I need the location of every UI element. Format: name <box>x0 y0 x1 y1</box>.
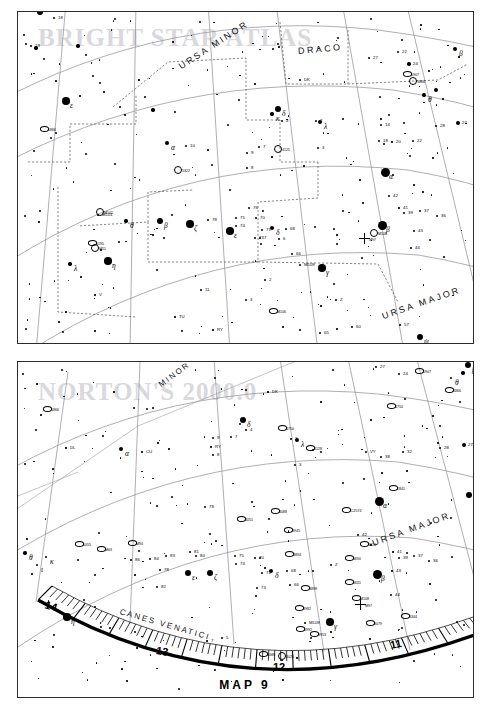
background-star <box>336 243 338 245</box>
deep-sky-object-label: 3982 <box>303 608 311 612</box>
star-marker <box>365 451 367 453</box>
background-star <box>51 586 52 587</box>
background-star <box>380 118 381 119</box>
star-marker <box>285 228 288 231</box>
star-marker <box>103 91 104 92</box>
background-star <box>152 407 154 409</box>
star-marker <box>212 454 214 456</box>
background-star <box>187 503 188 504</box>
background-star <box>419 316 420 317</box>
background-star <box>109 627 111 629</box>
background-star <box>308 570 309 571</box>
star-marker <box>270 226 275 231</box>
star-marker <box>428 560 431 563</box>
background-star <box>288 530 289 531</box>
star-label: 22 <box>417 139 422 143</box>
background-star <box>436 104 437 105</box>
background-star <box>141 471 142 472</box>
background-star <box>182 485 183 486</box>
star-marker <box>294 464 296 466</box>
background-star <box>83 599 85 601</box>
star-marker <box>156 586 158 588</box>
background-star <box>440 66 441 67</box>
star-label: TU <box>179 315 185 319</box>
star-marker <box>436 215 439 218</box>
star-label: λ <box>324 123 327 131</box>
background-star <box>392 174 394 176</box>
star-chart-panel-bottom[interactable]: NORTON'S 2000.0 DLαCU978RYδ4DKλ232724θβV… <box>17 361 474 698</box>
background-star <box>234 404 235 405</box>
star-marker <box>391 141 392 142</box>
star-label: β <box>472 366 474 374</box>
star-marker <box>315 120 318 123</box>
star-label: 43 <box>396 569 401 573</box>
star-marker <box>413 230 415 232</box>
star-label: β <box>381 575 385 583</box>
background-star <box>447 45 448 46</box>
background-star <box>245 389 247 391</box>
background-star <box>181 330 183 332</box>
background-star <box>255 260 256 261</box>
background-star <box>308 473 309 474</box>
background-star <box>301 292 302 293</box>
star-label: 2 <box>269 278 271 282</box>
star-label: θ <box>455 379 459 387</box>
star-marker <box>230 436 232 438</box>
background-star <box>373 255 374 256</box>
star-marker <box>255 217 258 220</box>
star-label: VY <box>370 450 376 454</box>
background-star <box>25 328 27 330</box>
background-star <box>338 430 339 431</box>
star-marker <box>99 82 101 84</box>
background-star <box>451 556 453 558</box>
star-marker <box>212 437 215 440</box>
star-marker <box>267 391 268 392</box>
star-marker <box>335 299 338 302</box>
background-star <box>370 18 372 20</box>
star-marker <box>254 237 257 240</box>
background-star <box>125 241 126 242</box>
background-star <box>52 468 53 469</box>
background-star <box>59 63 61 65</box>
star-label: 43 <box>418 229 423 233</box>
background-star <box>452 654 453 655</box>
background-star <box>363 478 365 480</box>
background-star <box>92 448 93 449</box>
background-star <box>348 570 349 571</box>
star-label: ε <box>192 574 195 582</box>
star-label: Z <box>340 298 343 302</box>
star-label: 70 <box>260 216 265 220</box>
background-star <box>134 177 135 178</box>
star-marker <box>254 557 257 560</box>
background-star <box>286 119 287 120</box>
background-star <box>188 85 189 86</box>
background-star <box>404 398 406 400</box>
background-star <box>288 78 289 79</box>
background-star <box>262 36 263 37</box>
deep-sky-object-marker <box>96 208 104 216</box>
background-star <box>414 51 415 52</box>
star-chart-panel-top[interactable]: BRIGHT STAR ATLAS 1819εα10978δκ476λ23 <box>17 11 474 344</box>
background-star <box>199 333 200 334</box>
star-marker <box>439 447 442 450</box>
deep-sky-object-label: 5322 <box>182 170 190 174</box>
background-star <box>172 41 173 42</box>
background-star <box>388 392 390 394</box>
background-star <box>388 114 390 116</box>
background-star <box>143 477 144 478</box>
background-star <box>409 85 410 86</box>
background-star <box>251 450 252 451</box>
deep-sky-object-label: 3894 <box>293 554 301 558</box>
background-star <box>291 170 292 171</box>
background-star <box>442 436 444 438</box>
star-label: 8 <box>217 453 219 457</box>
background-star <box>312 570 314 572</box>
star-marker <box>245 429 248 432</box>
deep-sky-object-marker <box>174 166 182 174</box>
background-star <box>285 480 286 481</box>
background-star <box>282 499 283 500</box>
background-star <box>407 153 408 154</box>
star-marker <box>351 326 353 328</box>
star-marker <box>281 120 284 123</box>
star-label: DK <box>272 390 278 394</box>
